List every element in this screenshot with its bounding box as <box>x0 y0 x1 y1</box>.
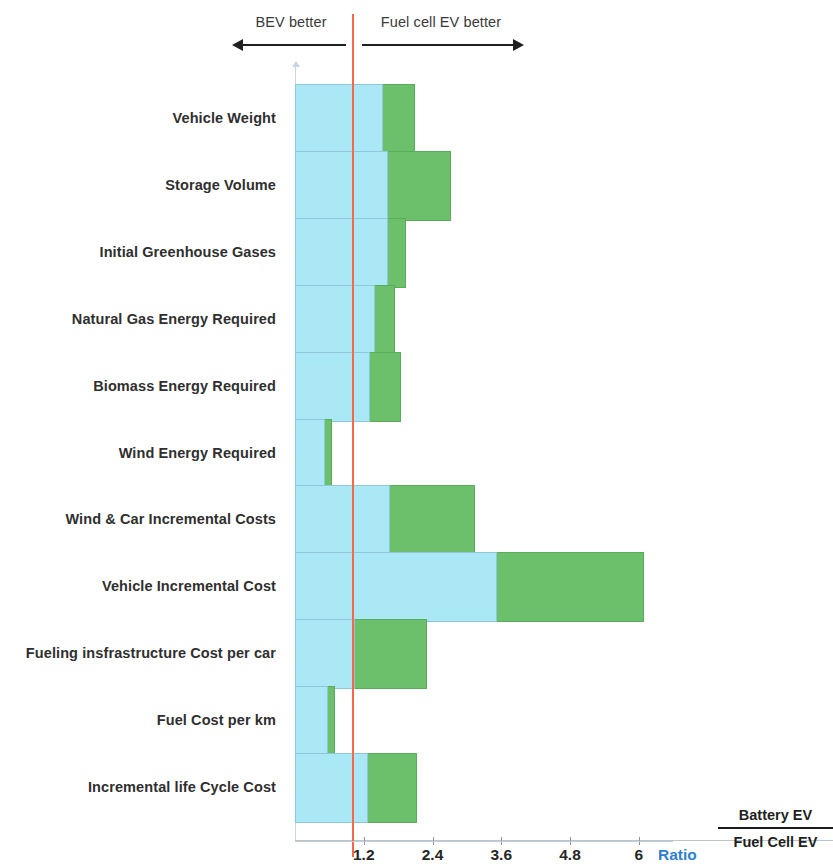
bar-segment-high <box>375 285 395 355</box>
x-tick-label: 6 <box>634 846 643 864</box>
fuelcell-better-annotation: Fuel cell EV better <box>358 14 524 60</box>
bar-segment-low <box>295 419 325 489</box>
fuelcell-better-label: Fuel cell EV better <box>358 14 524 30</box>
bar-segment-low <box>295 151 388 221</box>
bar-row <box>295 419 833 489</box>
ratio-bar-chart: BEV better Fuel cell EV better Vehicle W… <box>0 0 833 866</box>
x-axis-extension <box>295 841 673 842</box>
left-arrow-icon <box>232 39 350 51</box>
category-label: Vehicle Weight <box>173 110 276 126</box>
ratio-fraction-legend: Battery EV Fuel Cell EV <box>718 805 833 852</box>
bar-row <box>295 151 833 221</box>
bar-row <box>295 619 833 689</box>
bar-segment-low <box>295 686 328 756</box>
bar-segment-high <box>370 352 401 422</box>
fraction-rule <box>718 827 833 829</box>
x-tick-label: 2.4 <box>422 846 444 864</box>
plot-area <box>295 66 833 841</box>
bar-segment-high <box>383 84 415 154</box>
category-axis-labels: Vehicle WeightStorage VolumeInitial Gree… <box>0 66 286 841</box>
x-tick-label: 4.8 <box>559 846 581 864</box>
bar-segment-high <box>388 218 406 288</box>
bar-segment-high <box>325 419 332 489</box>
bar-segment-high <box>355 619 427 689</box>
bar-segment-low <box>295 552 497 622</box>
bar-row <box>295 285 833 355</box>
bev-better-annotation: BEV better <box>232 14 350 60</box>
category-label: Natural Gas Energy Required <box>72 311 276 327</box>
right-arrow-icon <box>358 39 524 51</box>
comparison-annotations: BEV better Fuel cell EV better <box>0 14 833 60</box>
bar-row <box>295 218 833 288</box>
bar-segment-low <box>295 753 368 823</box>
category-label: Biomass Energy Required <box>93 378 276 394</box>
bars-layer <box>295 66 833 841</box>
bar-segment-low <box>295 285 375 355</box>
ratio-caption: Ratio <box>658 846 697 864</box>
bar-segment-high <box>390 485 475 555</box>
x-tick-label: 1.2 <box>353 846 375 864</box>
bar-row <box>295 686 833 756</box>
category-label: Initial Greenhouse Gases <box>100 244 276 260</box>
threshold-line <box>352 14 354 857</box>
fraction-numerator: Battery EV <box>718 805 833 825</box>
bar-segment-low <box>295 84 383 154</box>
bar-segment-high <box>368 753 417 823</box>
bar-row <box>295 485 833 555</box>
bar-row <box>295 552 833 622</box>
bar-segment-high <box>497 552 644 622</box>
category-label: Wind & Car Incremental Costs <box>65 511 276 527</box>
bar-row <box>295 84 833 154</box>
bar-segment-low <box>295 485 390 555</box>
x-tick-label: 3.6 <box>490 846 512 864</box>
category-label: Fuel Cost per km <box>157 712 276 728</box>
bar-row <box>295 352 833 422</box>
bar-segment-low <box>295 218 388 288</box>
bar-segment-high <box>328 686 335 756</box>
category-label: Storage Volume <box>165 177 276 193</box>
bar-segment-low <box>295 352 370 422</box>
bev-better-label: BEV better <box>232 14 350 30</box>
category-label: Wind Energy Required <box>119 445 276 461</box>
category-label: Fueling insfrastructure Cost per car <box>26 645 276 661</box>
fraction-denominator: Fuel Cell EV <box>718 832 833 852</box>
category-label: Incremental life Cycle Cost <box>88 779 276 795</box>
bar-segment-high <box>388 151 451 221</box>
category-label: Vehicle Incremental Cost <box>102 578 276 594</box>
bar-segment-low <box>295 619 355 689</box>
